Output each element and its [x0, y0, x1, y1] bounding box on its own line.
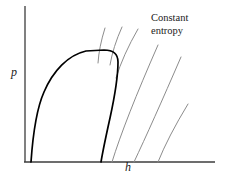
isentrope-line-1 — [98, 28, 105, 63]
isentrope-line-5 — [134, 57, 181, 162]
constant-entropy-line-1: Constant — [151, 12, 188, 25]
x-axis-label: h — [125, 161, 131, 173]
constant-entropy-annotation: Constant entropy — [151, 12, 188, 37]
isentrope-line-2 — [110, 27, 122, 65]
isentropes-group — [98, 27, 188, 162]
constant-entropy-line-2: entropy — [151, 25, 188, 38]
saturation-dome-curve — [31, 50, 118, 162]
isentrope-line-3 — [116, 29, 138, 78]
saturation-dome-group — [31, 50, 118, 162]
ph-diagram-figure: p h Constant entropy — [0, 0, 226, 179]
isentrope-line-6 — [158, 104, 188, 162]
isentrope-line-4 — [112, 45, 158, 162]
plot-canvas — [0, 0, 226, 179]
y-axis-label: p — [11, 66, 17, 78]
